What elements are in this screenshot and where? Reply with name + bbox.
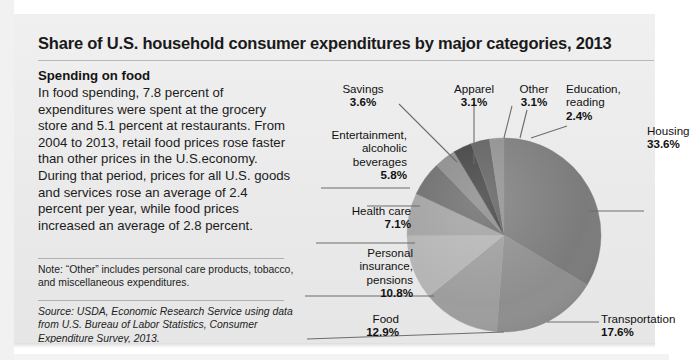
- label-personal-insurance: Personal insurance, pensions 10.8%: [313, 246, 413, 300]
- label-transportation-pct: 17.6%: [601, 325, 694, 338]
- pie-shading-overlay: [407, 138, 601, 332]
- label-entertainment-line1: Entertainment,: [291, 128, 407, 141]
- title-divider: [38, 60, 654, 61]
- label-food: Food 12.9%: [313, 312, 399, 339]
- label-health-care-name: Health care: [309, 204, 411, 217]
- leader-education: [531, 126, 567, 138]
- source-divider: [38, 300, 284, 301]
- label-health-care-pct: 7.1%: [309, 217, 411, 230]
- label-education-pct: 2.4%: [566, 109, 666, 122]
- label-housing: Housing 33.6%: [647, 124, 694, 151]
- label-personal-insurance-line3: pensions: [313, 273, 413, 286]
- label-personal-insurance-line1: Personal: [313, 246, 413, 259]
- label-personal-insurance-line2: insurance,: [313, 259, 413, 272]
- label-savings: Savings 3.6%: [315, 82, 411, 109]
- label-transportation: Transportation 17.6%: [601, 312, 694, 339]
- label-personal-insurance-pct: 10.8%: [313, 286, 413, 299]
- label-transportation-name: Transportation: [601, 312, 694, 325]
- figure-panel: Share of U.S. household consumer expendi…: [14, 14, 655, 348]
- label-food-name: Food: [313, 312, 399, 325]
- label-entertainment-line2: alcoholic: [291, 141, 407, 154]
- label-savings-pct: 3.6%: [315, 95, 411, 108]
- figure-title: Share of U.S. household consumer expendi…: [38, 34, 612, 53]
- note-divider: [38, 258, 284, 259]
- sidebar-body-text: In food spending, 7.8 percent of expendi…: [38, 85, 294, 234]
- label-entertainment-pct: 5.8%: [291, 168, 407, 181]
- label-food-pct: 12.9%: [313, 325, 399, 338]
- pie-chart: Savings 3.6% Apparel 3.1% Other 3.1% Edu…: [299, 64, 669, 359]
- label-education-line2: reading: [566, 95, 666, 108]
- figure-source: Source: USDA, Economic Research Service …: [38, 305, 298, 345]
- leader-apparel-b: [504, 106, 512, 138]
- label-education-line1: Education,: [566, 82, 666, 95]
- figure-note: Note: “Other” includes personal care pro…: [38, 263, 294, 290]
- label-housing-pct: 33.6%: [647, 137, 694, 150]
- label-health-care: Health care 7.1%: [309, 204, 411, 231]
- leader-savings: [399, 104, 457, 162]
- leader-other: [520, 110, 527, 138]
- label-savings-name: Savings: [315, 82, 411, 95]
- label-entertainment-line3: beverages: [291, 155, 407, 168]
- label-education: Education, reading 2.4%: [566, 82, 666, 122]
- sidebar-text-block: Spending on food In food spending, 7.8 p…: [38, 68, 294, 234]
- label-housing-name: Housing: [647, 124, 694, 137]
- label-entertainment: Entertainment, alcoholic beverages 5.8%: [291, 128, 407, 182]
- sidebar-subheading: Spending on food: [38, 68, 294, 84]
